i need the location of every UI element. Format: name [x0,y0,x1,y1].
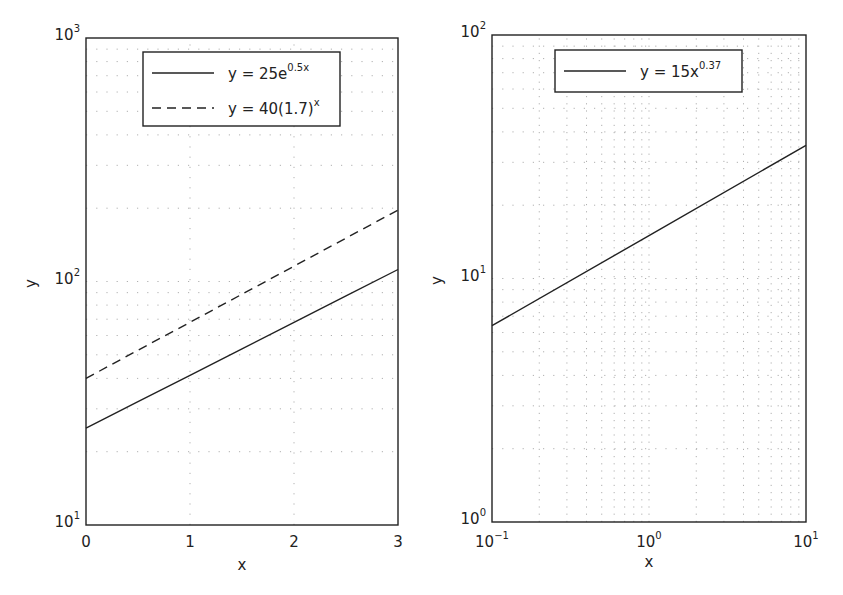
legend: y = 15x0.37 [555,50,742,92]
series-line-1 [86,270,398,429]
x-tick-label: 2 [289,533,299,551]
x-tick-label: 3 [393,533,403,551]
x-tick-label: 0 [81,533,91,551]
y-axis-label: y [428,276,446,285]
series-line-2 [86,210,398,378]
x-tick-label: 100 [636,530,661,551]
legend: y = 25e0.5xy = 40(1.7)x [143,52,340,126]
figure: 0123101102103xyy = 25e0.5xy = 40(1.7)x 1… [0,0,843,595]
x-tick-label: 1 [185,533,195,551]
x-tick-label: 101 [793,530,818,551]
x-tick-label: 10−1 [475,530,509,551]
y-tick-label: 101 [461,264,486,285]
y-tick-label: 102 [55,267,80,288]
y-tick-label: 100 [461,507,486,528]
right-plot: 10−1100101100101102xyy = 15x0.37 [428,20,819,571]
left-plot: 0123101102103xyy = 25e0.5xy = 40(1.7)x [22,23,403,574]
grid [492,35,806,522]
y-tick-label: 103 [55,23,80,44]
x-axis-label: x [645,553,654,571]
legend-label-2: y = 40(1.7)x [228,97,320,118]
y-tick-label: 101 [55,510,80,531]
y-tick-label: 102 [461,20,486,41]
y-axis-label: y [22,279,40,288]
x-axis-label: x [238,556,247,574]
